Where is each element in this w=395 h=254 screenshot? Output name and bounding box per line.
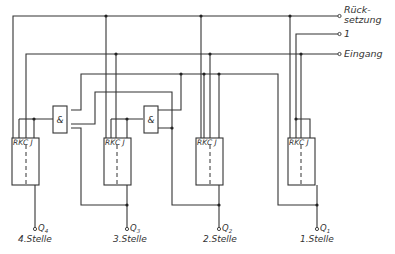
q4-label: Q4 [38, 223, 49, 234]
q1-terminal [315, 227, 318, 230]
q3-label: Q3 [130, 223, 141, 234]
q4-terminal [33, 227, 36, 230]
stage-2-label: 2.Stelle [203, 234, 237, 244]
counter-circuit-diagram: & & RKC J RKC J RKC J RKC J Q4 Q3 Q2 Q1 … [0, 0, 395, 254]
stage-1-label: 1.Stelle [300, 234, 334, 244]
q2-label: Q2 [222, 223, 233, 234]
ff2-pins: RKC J [197, 138, 217, 147]
and-gate-2: & [144, 106, 158, 133]
flip-flop-1: RKC J [288, 138, 315, 185]
flip-flop-4: RKC J [12, 138, 39, 185]
and-gate-1-label: & [57, 115, 64, 125]
q2-terminal [217, 227, 220, 230]
stage-3-label: 3.Stelle [113, 234, 147, 244]
q3-terminal [125, 227, 128, 230]
ff4-pins: RKC J [13, 138, 33, 147]
flip-flop-2: RKC J [196, 138, 223, 185]
reset-label-line2: setzung [344, 14, 382, 25]
ff3-pins: RKC J [105, 138, 125, 147]
ff1-pins: RKC J [289, 138, 309, 147]
one-terminal [338, 32, 341, 35]
q1-label: Q1 [320, 223, 330, 234]
and-gate-2-label: & [148, 115, 155, 125]
flip-flop-3: RKC J [104, 138, 131, 185]
input-line [26, 52, 341, 138]
one-label: 1 [344, 28, 350, 39]
gate1-output-line [19, 117, 53, 138]
reset-terminal [338, 14, 341, 17]
stage-4-label: 4.Stelle [18, 234, 52, 244]
and-gate-1: & [53, 106, 67, 133]
input-terminal [338, 52, 341, 55]
input-label: Eingang [344, 48, 383, 59]
